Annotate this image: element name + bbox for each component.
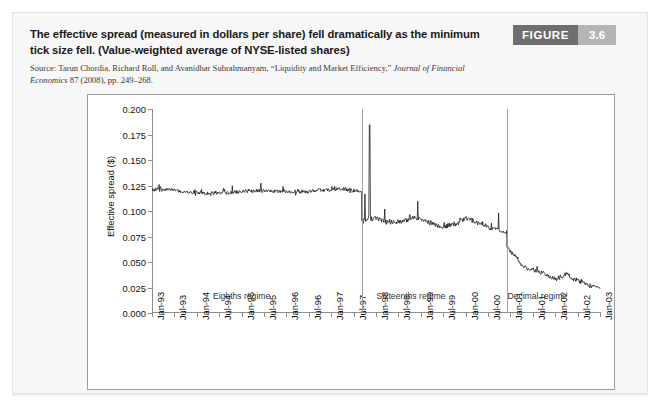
x-tick-mark	[242, 312, 243, 317]
x-tick-label: Jul-00	[492, 295, 502, 320]
x-tick-mark	[354, 312, 355, 317]
figure-badge: FIGURE 3.6	[513, 25, 616, 45]
regime-divider-eighths-to-sixteenths	[362, 109, 363, 313]
x-tick-mark	[600, 312, 601, 317]
x-tick-label: Jul-02	[582, 295, 592, 320]
page-bottom-shadow	[12, 394, 648, 397]
y-tick-label: 0.050	[106, 257, 146, 268]
x-tick-mark	[309, 312, 310, 317]
y-tick-label: 0.150	[106, 155, 146, 166]
y-tick-mark	[148, 186, 153, 187]
x-tick-mark	[578, 312, 579, 317]
x-tick-mark	[510, 312, 511, 317]
x-tick-label: Jan-96	[290, 292, 300, 320]
regime-annotation: Sixteenths regime	[377, 291, 446, 301]
x-tick-mark	[197, 312, 198, 317]
x-tick-mark	[286, 312, 287, 317]
y-tick-label: 0.100	[106, 206, 146, 217]
y-tick-label: 0.025	[106, 282, 146, 293]
x-tick-label: Jul-96	[313, 295, 323, 320]
figure-badge-label: FIGURE	[513, 25, 578, 45]
y-tick-label: 0.200	[106, 104, 146, 115]
x-tick-mark	[488, 312, 489, 317]
y-axis-tick-labels: 0.0000.0250.0500.0750.1000.1250.1500.175…	[102, 95, 146, 389]
x-tick-label: Jan-97	[335, 292, 345, 320]
chart-plot-area: Jan-93Jul-93Jan-94Jul-94Jan-95Jul-95Jan-…	[152, 109, 600, 313]
x-tick-mark	[264, 312, 265, 317]
y-tick-mark	[148, 237, 153, 238]
figure-title: The effective spread (measured in dollar…	[30, 27, 485, 58]
chart-plot-frame: Effective spread ($) 0.0000.0250.0500.07…	[87, 94, 615, 390]
y-tick-mark	[148, 288, 153, 289]
y-tick-mark	[148, 109, 153, 110]
x-tick-mark	[219, 312, 220, 317]
x-tick-label: Jul-99	[447, 295, 457, 320]
regime-annotation: Decimal regime	[507, 291, 567, 301]
x-tick-mark	[398, 312, 399, 317]
y-tick-label: 0.000	[106, 308, 146, 319]
x-tick-mark	[421, 312, 422, 317]
effective-spread-series	[152, 109, 600, 313]
x-tick-label: Jan-03	[604, 292, 614, 320]
x-tick-label: Jan-94	[201, 292, 211, 320]
chart-plot-inner: Effective spread ($) 0.0000.0250.0500.07…	[88, 95, 614, 389]
figure-source-note: Source: Tarun Chordia, Richard Roll, and…	[30, 63, 500, 86]
x-tick-mark	[466, 312, 467, 317]
y-tick-label: 0.125	[106, 180, 146, 191]
source-prefix: Source: Tarun Chordia, Richard Roll, and…	[30, 63, 394, 73]
x-tick-mark	[533, 312, 534, 317]
series-line-effective-spread	[152, 125, 600, 289]
y-tick-mark	[148, 211, 153, 212]
y-tick-mark	[148, 262, 153, 263]
source-suffix: 87 (2008), pp. 249–268.	[68, 75, 153, 85]
x-tick-label: Jul-93	[178, 295, 188, 320]
x-tick-label: Jan-00	[470, 292, 480, 320]
y-tick-mark	[148, 135, 153, 136]
y-tick-label: 0.075	[106, 231, 146, 242]
figure-card: FIGURE 3.6 The effective spread (measure…	[12, 12, 648, 394]
figure-badge-number: 3.6	[578, 25, 616, 45]
y-tick-mark	[148, 160, 153, 161]
y-tick-label: 0.175	[106, 129, 146, 140]
x-tick-mark	[555, 312, 556, 317]
regime-divider-sixteenths-to-decimal	[507, 109, 508, 313]
x-tick-label: Jan-93	[156, 292, 166, 320]
x-tick-mark	[443, 312, 444, 317]
x-tick-mark	[331, 312, 332, 317]
regime-annotation: Eighths regime	[213, 291, 270, 301]
x-tick-mark	[376, 312, 377, 317]
x-tick-mark	[152, 312, 153, 317]
x-tick-mark	[174, 312, 175, 317]
